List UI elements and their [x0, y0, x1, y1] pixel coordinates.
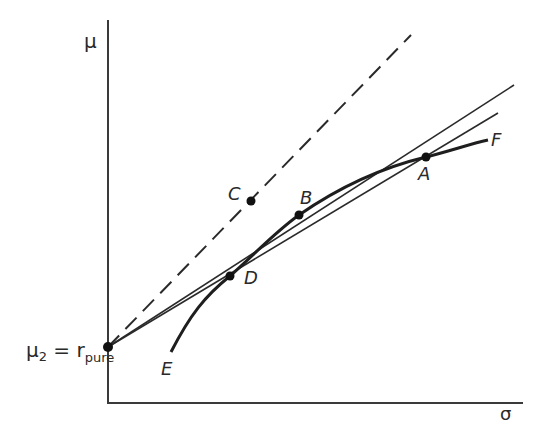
- label-e: E: [161, 358, 173, 379]
- point-a: [422, 153, 431, 162]
- label-b: B: [300, 187, 312, 208]
- y-axis-label: μ: [84, 29, 97, 53]
- efficient-frontier-diagram: μ σ C B D A E F μ2 = rpure: [0, 0, 550, 437]
- point-d: [226, 272, 235, 281]
- label-a: A: [417, 163, 430, 184]
- label-c: C: [228, 183, 241, 204]
- line-through-d-and-a: [108, 113, 498, 347]
- point-c: [247, 197, 256, 206]
- intercept-label: μ2 = rpure: [26, 338, 114, 365]
- intercept-equals-r: = r: [47, 338, 85, 362]
- tangent-line-through-b: [108, 85, 514, 347]
- intercept-mu-subscript: 2: [39, 349, 47, 364]
- frontier-curve: [171, 140, 488, 352]
- point-b: [295, 211, 304, 220]
- label-f: F: [491, 129, 502, 150]
- dashed-line-through-c: [108, 35, 411, 347]
- intercept-mu: μ: [26, 338, 39, 362]
- intercept-r-subscript: pure: [85, 350, 115, 365]
- label-d: D: [244, 267, 258, 288]
- x-axis-label: σ: [500, 403, 511, 424]
